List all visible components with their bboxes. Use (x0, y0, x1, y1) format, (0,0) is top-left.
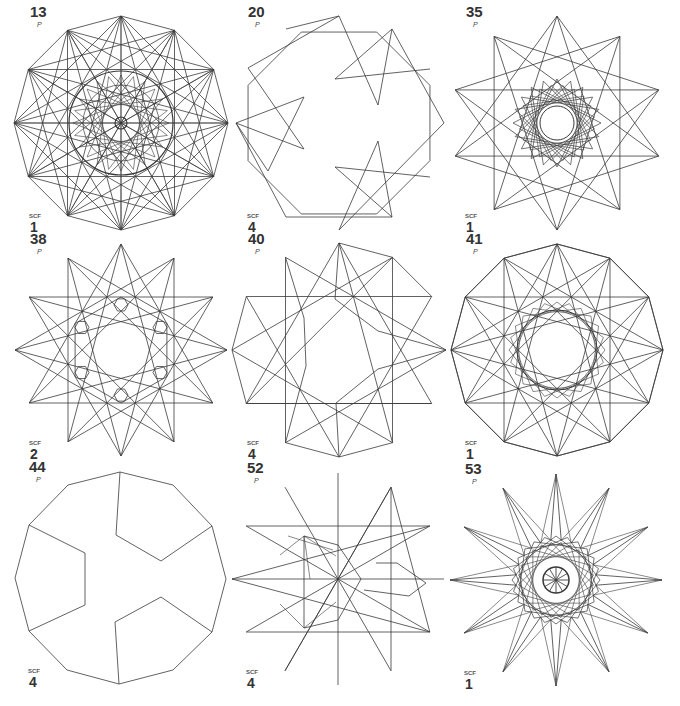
figure-13-drawing (14, 16, 228, 230)
figure-p-label: P (255, 21, 260, 28)
figure-41-drawing (451, 244, 663, 456)
figure-number: 53 (465, 461, 482, 476)
figure-40-drawing (232, 243, 446, 457)
figure-20-drawing (236, 16, 444, 230)
figure-p-label: P (36, 476, 41, 483)
figure-p-label: P (472, 478, 477, 485)
figure-35-drawing (455, 16, 659, 230)
figure-number: 38 (30, 231, 47, 246)
figure-44-drawing (15, 472, 226, 684)
scf-value: 1 (466, 447, 474, 461)
figure-p-label: P (473, 21, 478, 28)
figure-number: 35 (466, 4, 483, 19)
figure-52-drawing (232, 473, 444, 685)
figure-number: 20 (248, 4, 265, 19)
figure-p-label: P (254, 477, 259, 484)
figure-number: 40 (248, 231, 265, 246)
figure-p-label: P (37, 248, 42, 255)
figure-p-label: P (37, 21, 42, 28)
star-polygon-drawings (0, 0, 680, 706)
figure-number: 13 (30, 4, 47, 19)
figure-38-drawing (15, 244, 227, 456)
figure-p-label: P (473, 248, 478, 255)
figure-number: 52 (247, 460, 264, 475)
figure-p-label: P (255, 248, 260, 255)
scf-value: 1 (465, 677, 473, 691)
scf-value: 4 (29, 675, 37, 689)
figure-number: 41 (466, 231, 483, 246)
scf-value: 4 (247, 676, 255, 690)
figure-53-drawing (450, 474, 662, 686)
figure-number: 44 (29, 459, 46, 474)
